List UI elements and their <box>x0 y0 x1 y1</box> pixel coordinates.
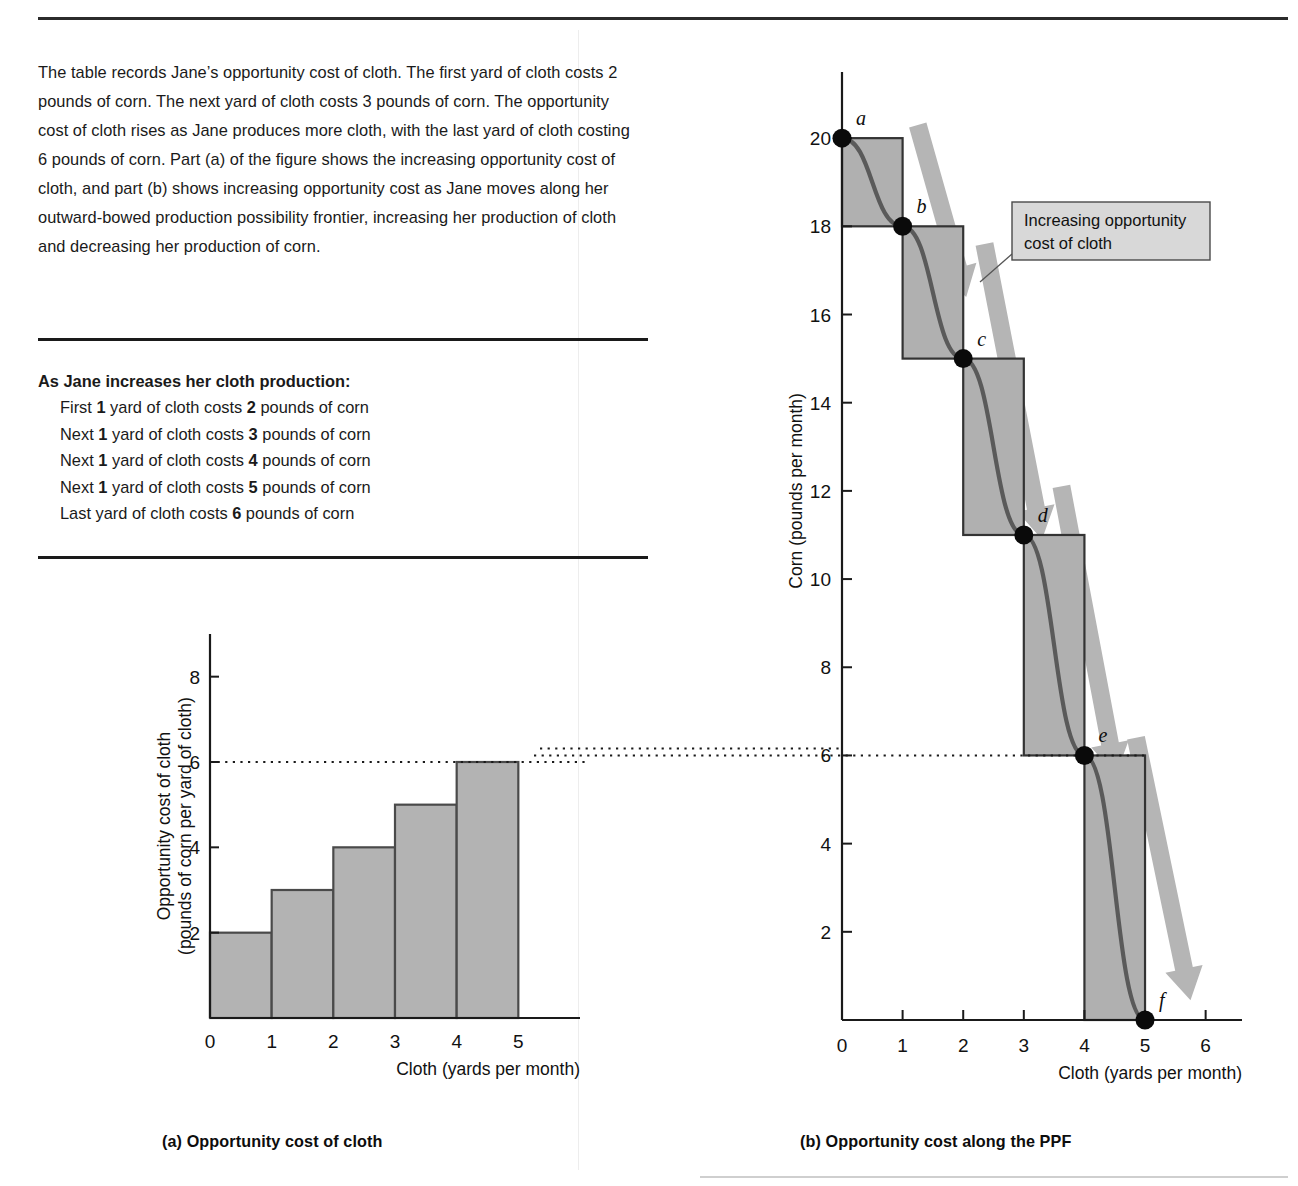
ppf-point-label-b: b <box>917 195 927 217</box>
y-tick-label-b-14: 14 <box>810 393 832 414</box>
y-axis-label-a-line2: (pounds of corn per yard of cloth) <box>175 697 195 955</box>
x-tick-label-b-6: 6 <box>1200 1035 1211 1056</box>
y-tick-label-b-16: 16 <box>810 305 831 326</box>
table-row: Next 1 yard of cloth costs 4 pounds of c… <box>38 447 648 474</box>
ppf-point-c <box>954 349 973 368</box>
chart-a-svg: 2468012345Cloth (yards per month)Opportu… <box>150 620 590 1080</box>
table-row: Next 1 yard of cloth costs 5 pounds of c… <box>38 474 648 501</box>
table-top-rule <box>38 338 648 341</box>
ppf-point-d <box>1014 525 1033 544</box>
ppf-point-label-c: c <box>977 328 986 350</box>
table-rows: First 1 yard of cloth costs 2 pounds of … <box>38 394 648 527</box>
y-tick-label-b-2: 2 <box>820 922 831 943</box>
y-axis-label-a-line1: Opportunity cost of cloth <box>154 732 174 921</box>
ppf-point-label-e: e <box>1098 724 1107 746</box>
reference-line-bridge <box>540 747 840 750</box>
chart-a-opportunity-cost-of-cloth: 2468012345Cloth (yards per month)Opportu… <box>150 620 590 1080</box>
ppf-point-b <box>893 217 912 236</box>
bar-2 <box>272 890 334 1018</box>
x-axis-label-b: Cloth (yards per month) <box>1058 1063 1242 1083</box>
x-tick-label-1: 1 <box>266 1031 277 1052</box>
table-bottom-rule <box>38 556 648 559</box>
ppf-point-a <box>833 129 852 148</box>
y-tick-label-8: 8 <box>189 667 200 688</box>
bar-1 <box>210 933 272 1018</box>
ppf-point-f <box>1136 1011 1155 1030</box>
x-tick-label-4: 4 <box>451 1031 462 1052</box>
x-tick-label-b-0: 0 <box>837 1035 848 1056</box>
y-tick-label-b-18: 18 <box>810 216 831 237</box>
top-divider-rule <box>38 17 1288 20</box>
table-heading: As Jane increases her cloth production: <box>38 369 648 394</box>
x-tick-label-b-3: 3 <box>1019 1035 1030 1056</box>
y-tick-label-b-4: 4 <box>820 834 831 855</box>
ppf-point-label-f: f <box>1159 989 1167 1012</box>
x-tick-label-b-1: 1 <box>897 1035 908 1056</box>
table-row: First 1 yard of cloth costs 2 pounds of … <box>38 394 648 421</box>
y-tick-label-b-10: 10 <box>810 569 831 590</box>
x-tick-label-3: 3 <box>390 1031 401 1052</box>
y-tick-label-b-20: 20 <box>810 128 831 149</box>
figure-page: The table records Jane’s opportunity cos… <box>0 0 1298 1186</box>
chart-b-opportunity-cost-along-ppf: 24681012141618200123456abcdefCloth (yard… <box>780 48 1250 1083</box>
x-tick-label-b-2: 2 <box>958 1035 969 1056</box>
callout-line-2: cost of cloth <box>1024 234 1112 252</box>
table-row: Next 1 yard of cloth costs 3 pounds of c… <box>38 421 648 448</box>
ppf-point-label-d: d <box>1038 504 1049 526</box>
callout-line-1: Increasing opportunity <box>1024 211 1187 229</box>
bar-5 <box>457 762 519 1018</box>
intro-paragraph: The table records Jane’s opportunity cos… <box>38 58 638 261</box>
y-axis-label-b: Corn (pounds per month) <box>786 393 806 589</box>
bottom-divider-rule <box>700 1176 1288 1178</box>
x-tick-label-0: 0 <box>205 1031 216 1052</box>
x-tick-label-b-5: 5 <box>1140 1035 1151 1056</box>
caption-a: (a) Opportunity cost of cloth <box>162 1132 383 1151</box>
ppf-point-label-a: a <box>856 107 866 129</box>
chart-b-svg: 24681012141618200123456abcdefCloth (yard… <box>780 48 1250 1083</box>
cost-table: As Jane increases her cloth production: … <box>38 369 648 527</box>
x-tick-label-5: 5 <box>513 1031 524 1052</box>
bar-3 <box>333 847 395 1018</box>
table-row: Last yard of cloth costs 6 pounds of cor… <box>38 500 648 527</box>
x-tick-label-b-4: 4 <box>1079 1035 1090 1056</box>
x-tick-label-2: 2 <box>328 1031 339 1052</box>
caption-b: (b) Opportunity cost along the PPF <box>800 1132 1071 1151</box>
y-tick-label-b-8: 8 <box>820 657 831 678</box>
y-tick-label-b-12: 12 <box>810 481 831 502</box>
bar-4 <box>395 805 457 1018</box>
ppf-point-e <box>1075 746 1094 765</box>
x-axis-label-a: Cloth (yards per month) <box>396 1059 580 1079</box>
